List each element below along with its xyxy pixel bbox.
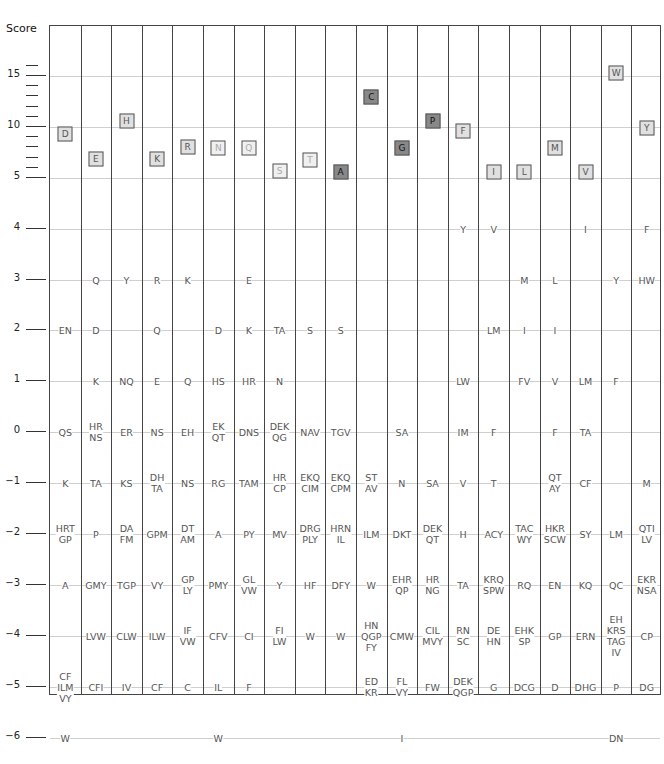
residue-group: KRQ bbox=[483, 574, 504, 585]
y-tick-label: −2 bbox=[0, 526, 20, 537]
residue-group: Y bbox=[460, 224, 466, 235]
score-cell: CMW bbox=[390, 631, 414, 642]
score-cell: C bbox=[184, 682, 191, 693]
residue-group: SCW bbox=[544, 534, 566, 545]
y-tick bbox=[26, 584, 46, 585]
residue-group: ILM bbox=[57, 682, 73, 693]
column-score-box: T bbox=[303, 152, 318, 167]
y-tick bbox=[26, 431, 46, 432]
score-cell: F bbox=[644, 224, 649, 235]
residue-group: SC bbox=[456, 636, 470, 647]
gridline bbox=[50, 738, 660, 739]
residue-group: Q bbox=[153, 325, 160, 336]
score-cell: K bbox=[185, 275, 191, 286]
residue-group: F bbox=[552, 427, 557, 438]
residue-group: VY bbox=[396, 687, 408, 698]
residue-group: M bbox=[643, 478, 651, 489]
residue-group: E bbox=[154, 376, 160, 387]
score-cell: N bbox=[398, 478, 405, 489]
column-score-box: R bbox=[180, 140, 195, 155]
score-cell: N bbox=[276, 376, 283, 387]
score-cell: EHKRSTAGIV bbox=[607, 614, 626, 658]
score-cell: Y bbox=[124, 275, 130, 286]
residue-group: IL bbox=[214, 682, 222, 693]
score-cell: I bbox=[584, 224, 587, 235]
score-cell: I bbox=[400, 733, 403, 744]
score-cell: DKT bbox=[393, 529, 412, 540]
column-score-box: Y bbox=[639, 121, 654, 136]
score-cell: K bbox=[62, 478, 68, 489]
residue-group: TA bbox=[274, 325, 286, 336]
residue-group: EK bbox=[212, 421, 225, 432]
score-cell: SY bbox=[580, 529, 592, 540]
residue-group: L bbox=[552, 275, 557, 286]
score-cell: NS bbox=[151, 427, 164, 438]
residue-group: VY bbox=[151, 580, 163, 591]
score-cell: HKRSCW bbox=[544, 523, 566, 545]
score-cell: H bbox=[460, 529, 467, 540]
substitution-score-chart: Score 1510543210−1−2−3−4−5−6 DEHKRNQSTAC… bbox=[0, 0, 664, 764]
residue-group: M bbox=[520, 275, 528, 286]
score-cell: F bbox=[552, 427, 557, 438]
score-cell: LM bbox=[579, 376, 593, 387]
y-axis-label: Score bbox=[6, 22, 37, 35]
residue-group: NSA bbox=[637, 585, 657, 596]
residue-group: IM bbox=[458, 427, 469, 438]
residue-group: AV bbox=[365, 483, 377, 494]
residue-group: I bbox=[553, 325, 556, 336]
residue-group: NG bbox=[425, 585, 439, 596]
score-cell: PMY bbox=[208, 580, 228, 591]
score-cell: NQ bbox=[119, 376, 134, 387]
score-cell: GPLY bbox=[181, 574, 194, 596]
column-score-box: S bbox=[272, 163, 287, 178]
residue-group: E bbox=[246, 275, 252, 286]
column-divider bbox=[570, 26, 571, 694]
residue-group: F bbox=[613, 376, 618, 387]
score-cell: CI bbox=[244, 631, 253, 642]
residue-group: I bbox=[584, 224, 587, 235]
residue-group: HS bbox=[212, 376, 225, 387]
column-score-box: I bbox=[486, 164, 501, 179]
residue-group: QT bbox=[212, 432, 225, 443]
score-cell: V bbox=[552, 376, 559, 387]
y-tick bbox=[26, 686, 46, 687]
residue-group: CP bbox=[273, 483, 287, 494]
score-cell: QC bbox=[609, 580, 623, 591]
score-cell: HRNG bbox=[425, 574, 439, 596]
residue-group: CF bbox=[151, 682, 163, 693]
residue-group: W bbox=[305, 631, 314, 642]
score-cell: Y bbox=[613, 275, 619, 286]
score-cell: P bbox=[93, 529, 99, 540]
residue-group: AY bbox=[548, 483, 561, 494]
score-cell: EN bbox=[59, 325, 72, 336]
column-divider bbox=[601, 26, 602, 694]
score-cell: CILMVY bbox=[422, 625, 443, 647]
residue-group: QC bbox=[609, 580, 623, 591]
column-divider bbox=[203, 26, 204, 694]
score-cell: TGP bbox=[117, 580, 136, 591]
score-cell: V bbox=[490, 224, 497, 235]
residue-group: QP bbox=[392, 585, 412, 596]
score-cell: ILW bbox=[149, 631, 166, 642]
score-cell: M bbox=[643, 478, 651, 489]
score-cell: HRTGP bbox=[56, 523, 75, 545]
residue-group: CMW bbox=[390, 631, 414, 642]
residue-group: MV bbox=[272, 529, 287, 540]
residue-group: RG bbox=[211, 478, 225, 489]
score-cell: LW bbox=[456, 376, 470, 387]
residue-group: GP bbox=[56, 534, 75, 545]
score-cell: KRQSPW bbox=[483, 574, 504, 596]
y-minor-tick bbox=[26, 146, 38, 147]
residue-group: DEK bbox=[453, 676, 474, 687]
score-cell: ER bbox=[120, 427, 133, 438]
score-cell: Q bbox=[92, 275, 99, 286]
residue-group: ER bbox=[120, 427, 133, 438]
score-cell: A bbox=[62, 580, 69, 591]
residue-group: CLW bbox=[116, 631, 136, 642]
score-cell: CFILMVY bbox=[57, 671, 73, 704]
score-cell: W bbox=[305, 631, 314, 642]
residue-group: F bbox=[491, 427, 496, 438]
residue-group: GPM bbox=[146, 529, 167, 540]
score-cell: QTAY bbox=[548, 472, 561, 494]
residue-group: ILM bbox=[363, 529, 379, 540]
